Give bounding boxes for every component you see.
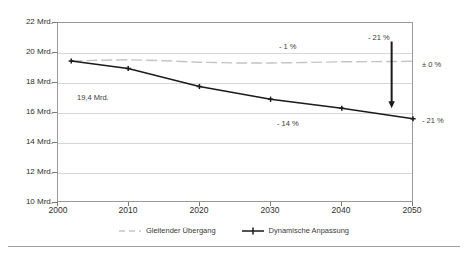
annotation-start-value: 19,4 Mrd. [77,94,109,102]
legend-item-dynamische-anpassung[interactable]: Dynamische Anpassung [242,226,349,235]
annotation-gleitender-uebergang-change: - 1 % [279,43,297,51]
legend-label-gleitender-uebergang: Gleitender Übergang [146,226,216,235]
series-line-dynamische-anpassung [71,61,413,119]
solid-line-plus-swatch-icon [242,227,264,235]
y-tick-label-10: 10 Mrd. [0,198,53,206]
legend-item-gleitender-uebergang[interactable]: Gleitender Übergang [119,226,216,235]
annotation-gleitender-uebergang-endvalue: ± 0 % [422,61,441,69]
y-tick-label-12: 12 Mrd. [0,168,53,176]
x-tick-label-2000: 2000 [38,206,78,215]
annotation-dynamische-anpassung-endvalue: - 21 % [422,117,444,125]
y-tick-label-14: 14 Mrd. [0,138,53,146]
y-tick-label-16: 16 Mrd. [0,108,53,116]
x-tick-label-2040: 2040 [321,206,361,215]
data-layer [57,22,413,202]
gap-arrow-icon [388,42,394,109]
bottom-divider [8,246,460,247]
x-tick-label-2010: 2010 [108,206,148,215]
dashed-line-swatch-icon [119,227,141,235]
y-tick-label-18: 18 Mrd. [0,78,53,86]
y-tick-label-20: 20 Mrd. [0,48,53,56]
y-tick-label-22: 22 Mrd. [0,18,53,26]
annotation-dynamische-anpassung-change: - 14 % [277,120,299,128]
x-tick-label-2030: 2030 [250,206,290,215]
chart-figure: 22 Mrd. 20 Mrd. 18 Mrd. 16 Mrd. 14 Mrd. … [0,0,468,256]
annotation-gap-arrow-top-label: - 21 % [368,34,390,42]
series-line-gleitender-uebergang [71,60,413,63]
chart-legend: Gleitender Übergang Dynamische Anpassung [0,226,468,235]
x-tick-label-2050: 2050 [392,206,432,215]
legend-label-dynamische-anpassung: Dynamische Anpassung [269,226,349,235]
x-tick-label-2020: 2020 [179,206,219,215]
